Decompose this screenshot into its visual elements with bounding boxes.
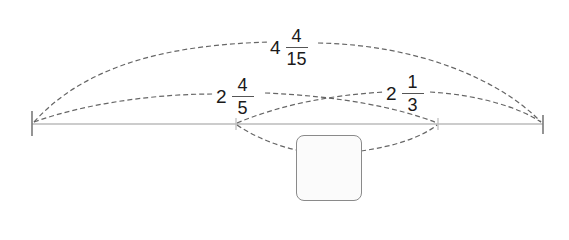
total-numerator: 4 [292,26,302,46]
fraction-bar [402,93,424,94]
fraction-bar [232,96,254,97]
left-segment-label: 2 4 5 [216,75,254,118]
gap-arc-right [361,125,437,151]
left-segment-whole: 2 [216,86,227,108]
right-segment-whole: 2 [386,83,397,105]
total-fraction: 4 15 [286,26,308,69]
total-whole: 4 [270,37,281,59]
total-label: 4 4 15 [270,26,308,69]
left-segment-denominator: 5 [238,98,248,118]
total-arc-right [318,43,541,122]
right-segment-label: 2 1 3 [386,72,424,115]
fraction-bar [286,47,308,48]
left-segment-fraction: 4 5 [232,75,254,118]
right-segment-denominator: 3 [408,95,418,115]
total-denominator: 15 [287,49,307,69]
gap-arc-left [237,125,296,150]
right-segment-arc [237,92,385,123]
unknown-answer-box[interactable] [296,135,362,201]
right-segment-fraction: 1 3 [402,72,424,115]
right-segment-numerator: 1 [408,72,418,92]
left-segment-numerator: 4 [238,75,248,95]
